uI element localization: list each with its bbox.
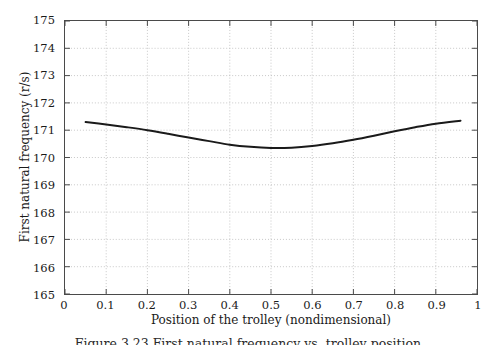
x-tick-label: 0.4 — [220, 298, 238, 312]
x-tick-label: 0.9 — [427, 298, 445, 312]
x-axis-title: Position of the trolley (nondimensional) — [64, 313, 478, 327]
x-tick-label: 0.6 — [303, 298, 321, 312]
x-tick-label: 0.2 — [138, 298, 156, 312]
x-tick-label: 0.7 — [345, 298, 363, 312]
x-axis-tick-labels: 00.10.20.30.40.50.60.70.80.91 — [0, 0, 496, 345]
x-tick-label: 0.8 — [386, 298, 404, 312]
x-tick-label: 0 — [60, 298, 67, 312]
x-tick-label: 0.5 — [262, 298, 280, 312]
figure-container: 165166167168169170171172173174175 00.10.… — [0, 0, 496, 345]
x-tick-label: 0.1 — [96, 298, 114, 312]
y-axis-title: First natural frequency (r/s) — [18, 20, 36, 295]
x-tick-label: 0.3 — [179, 298, 197, 312]
x-tick-label: 1 — [474, 298, 481, 312]
figure-caption: Figure 3.23 First natural frequency vs. … — [0, 336, 496, 345]
